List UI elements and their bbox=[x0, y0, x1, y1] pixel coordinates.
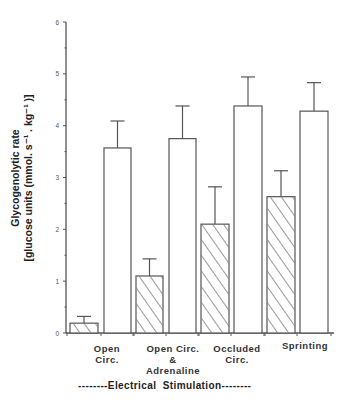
open-bar bbox=[169, 139, 196, 333]
y-tick-label: 3 bbox=[55, 174, 59, 181]
y-tick-label: 0 bbox=[55, 330, 59, 337]
category-label-occluded-circ: Occluded Circ. bbox=[202, 343, 272, 365]
y-axis-label-line2: [glucose units (mmol. s⁻¹ . kg⁻¹ )] bbox=[22, 94, 35, 261]
open-bar bbox=[104, 148, 131, 333]
bars bbox=[70, 77, 328, 333]
y-tick-label: 5 bbox=[55, 70, 59, 77]
y-axis-label-line1: Glycogenolytic rate bbox=[9, 94, 22, 261]
open-bar bbox=[300, 111, 328, 333]
y-tick-label: 6 bbox=[55, 19, 59, 26]
open-bar bbox=[234, 106, 262, 333]
y-tick-label: 4 bbox=[55, 122, 59, 129]
category-label-sprinting: Sprinting bbox=[270, 340, 340, 351]
y-tick-label: 2 bbox=[55, 226, 59, 233]
y-axis-label: Glycogenolytic rate [glucose units (mmol… bbox=[9, 94, 35, 261]
x-axis-label: --------Electrical Stimulation-------- bbox=[78, 380, 251, 391]
y-tick-label: 1 bbox=[55, 278, 59, 285]
